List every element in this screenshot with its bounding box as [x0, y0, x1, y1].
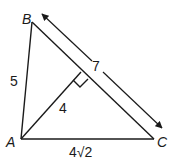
side-label-bc: 7	[92, 58, 100, 74]
vertex-label-b: B	[22, 11, 31, 27]
right-angle-mark	[73, 79, 88, 87]
side-label-ab: 5	[10, 73, 18, 89]
altitude	[21, 72, 81, 139]
triangle	[21, 22, 154, 139]
bc-arrow-lower	[103, 72, 162, 128]
vertex-label-a: A	[5, 134, 15, 150]
bc-arrow-upper	[42, 14, 92, 61]
side-label-altitude: 4	[59, 100, 67, 116]
triangle-diagram: B A C 5 4 4√2 7	[0, 0, 177, 165]
vertex-label-c: C	[157, 134, 168, 150]
side-ab	[21, 22, 32, 139]
side-label-ac: 4√2	[69, 144, 92, 160]
side-bc	[32, 22, 154, 139]
